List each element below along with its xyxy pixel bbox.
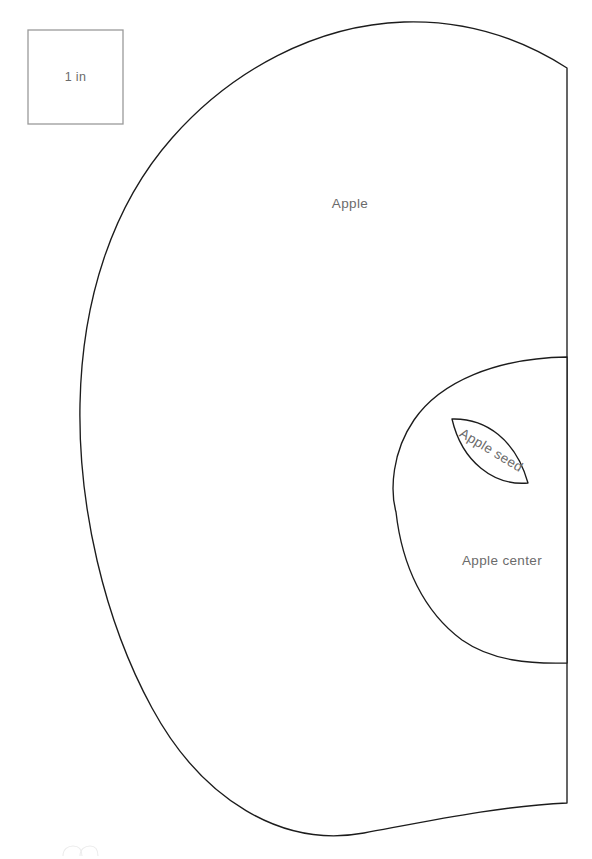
pattern-canvas: Apple Apple center Apple seed 1 in [0, 0, 592, 859]
scale-reference-label: 1 in [65, 70, 86, 84]
piece-label-apple-center: Apple center [462, 553, 542, 568]
watermark-icon [63, 846, 98, 856]
piece-label-apple: Apple [332, 196, 368, 211]
pattern-sheet: Apple Apple center Apple seed 1 in [0, 0, 592, 859]
